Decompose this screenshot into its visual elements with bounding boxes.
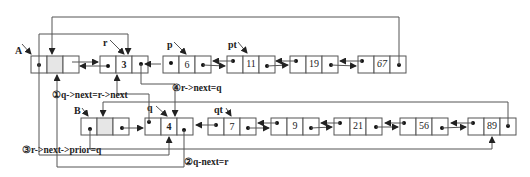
list-b-node-89: 89 <box>468 118 516 135</box>
pointer-p: p <box>167 39 186 54</box>
list-b-node-7: 7 <box>208 118 256 135</box>
svg-text:B: B <box>74 105 81 116</box>
pointer-b: B <box>74 105 88 116</box>
node-value: 21 <box>353 120 363 131</box>
node-value: 67 <box>377 58 388 69</box>
list-b-node-4: 4 <box>145 118 193 135</box>
list-a: 3 6 11 19 <box>31 17 406 73</box>
list-b-head-node <box>81 118 129 135</box>
node-value: 11 <box>246 58 256 69</box>
node-value: 19 <box>309 58 319 69</box>
svg-text:A: A <box>15 45 23 56</box>
pointer-qt: qt <box>214 104 231 116</box>
svg-text:qt: qt <box>214 104 224 115</box>
list-a-node-11: 11 <box>227 56 275 73</box>
list-b-node-56: 56 <box>400 118 448 135</box>
node-value: 7 <box>230 121 235 132</box>
list-b-node-21: 21 <box>334 118 382 135</box>
node-value: 9 <box>293 120 298 131</box>
svg-text:q: q <box>147 102 153 113</box>
step-4-label: ④r->next=q <box>172 83 222 93</box>
step-2-label: ②q-next=r <box>184 157 229 167</box>
list-a-head-node <box>31 56 79 73</box>
step-1-label: ①q->next=r->next <box>52 90 128 100</box>
svg-text:pt: pt <box>228 39 238 50</box>
linked-list-diagram: 3 6 11 19 <box>0 0 530 177</box>
node-value: 89 <box>487 120 497 131</box>
list-a-node-6: 6 <box>163 56 211 73</box>
list-b-node-9: 9 <box>271 118 319 135</box>
node-value: 6 <box>185 59 190 70</box>
node-value: 56 <box>419 120 429 131</box>
node-value: 4 <box>167 121 172 132</box>
pointer-a: A <box>15 44 31 56</box>
pointer-q: q <box>147 102 167 116</box>
svg-text:r: r <box>103 37 108 48</box>
pointer-pt: pt <box>228 39 247 53</box>
svg-text:p: p <box>167 39 173 50</box>
node-value: 3 <box>122 59 127 70</box>
step-3-label: ③r->next->prior=q <box>22 145 102 155</box>
pointer-r: r <box>103 37 124 54</box>
list-a-node-19: 19 <box>290 56 338 73</box>
